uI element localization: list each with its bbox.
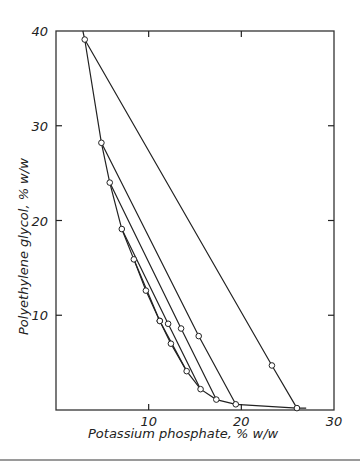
- tie-line: [110, 183, 217, 400]
- data-series: [83, 31, 306, 408]
- tie-line: [122, 229, 201, 389]
- bottom-divider: [0, 459, 360, 461]
- data-point-marker: [165, 321, 171, 327]
- data-point-marker: [119, 226, 125, 232]
- binodal-curve: [83, 31, 306, 408]
- y-tick-label: 20: [31, 214, 48, 229]
- y-tick-label: 30: [31, 119, 48, 134]
- data-point-marker: [157, 318, 163, 324]
- data-point-marker: [99, 140, 105, 146]
- data-point-marker: [269, 363, 275, 369]
- data-point-marker: [131, 257, 137, 263]
- data-point-marker: [198, 386, 204, 392]
- data-point-marker: [82, 37, 88, 43]
- y-axis-label: Polyethylene glycol, % w/w: [16, 158, 31, 335]
- y-tick-label: 40: [31, 24, 48, 39]
- phase-diagram-chart: 10203010203040 Potassium phosphate, % w/…: [0, 0, 360, 462]
- data-point-marker: [196, 333, 202, 339]
- data-point-marker: [107, 180, 113, 186]
- data-point-marker: [233, 402, 239, 408]
- tie-line: [101, 143, 235, 405]
- tie-line: [85, 40, 297, 409]
- x-axis-label: Potassium phosphate, % w/w: [88, 426, 279, 441]
- data-point-marker: [294, 405, 300, 411]
- data-point-marker: [184, 368, 190, 374]
- axis-ticks: [56, 31, 334, 410]
- x-tick-label: 30: [326, 414, 343, 429]
- plot-frame: [56, 31, 334, 410]
- tie-line: [134, 259, 187, 371]
- data-point-marker: [143, 288, 149, 294]
- data-point-marker: [168, 341, 174, 347]
- data-point-marker: [178, 326, 184, 332]
- y-tick-label: 10: [31, 308, 48, 323]
- data-point-marker: [214, 397, 220, 403]
